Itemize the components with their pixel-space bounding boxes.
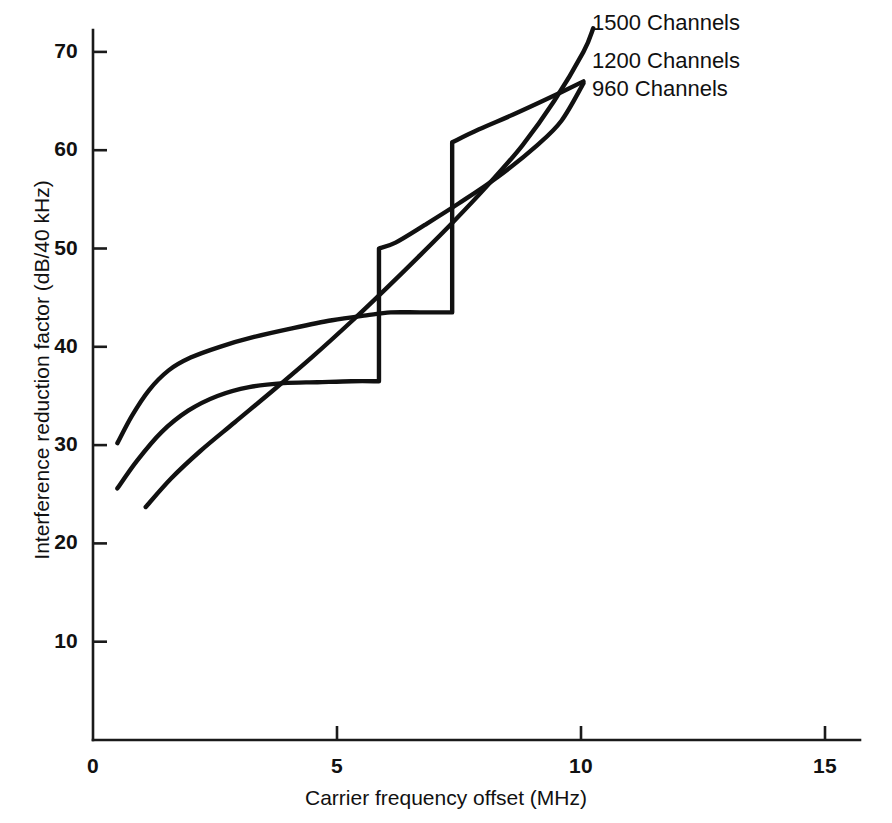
series-label-960: 960 Channels xyxy=(592,76,728,102)
x-tick-label: 10 xyxy=(541,754,621,778)
x-axis-title: Carrier frequency offset (MHz) xyxy=(0,786,892,810)
series-label-1500: 1500 Channels xyxy=(592,10,740,36)
x-tick-label: 15 xyxy=(785,754,865,778)
axis-ticks-group xyxy=(93,52,825,740)
x-tick-label: 0 xyxy=(53,754,133,778)
plot-canvas xyxy=(0,0,892,823)
series-line-1500-channels xyxy=(146,28,594,507)
series-label-1200: 1200 Channels xyxy=(592,48,740,74)
y-axis-title: Interference reduction factor (dB/40 kHz… xyxy=(30,0,54,740)
axes-group xyxy=(93,30,860,740)
series-line-1200-channels xyxy=(117,83,583,488)
chart-figure: 10203040506070051015 Carrier frequency o… xyxy=(0,0,892,823)
x-tick-label: 5 xyxy=(297,754,377,778)
series-line-960-channels xyxy=(117,81,583,443)
data-series-group xyxy=(117,28,593,507)
